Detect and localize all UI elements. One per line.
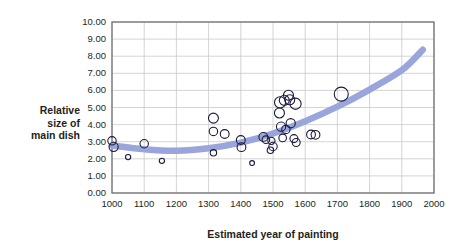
gridlines: [112, 22, 434, 193]
scatter-chart: Relative size of main dish Estimated yea…: [0, 0, 462, 252]
plot-area: [0, 0, 462, 252]
